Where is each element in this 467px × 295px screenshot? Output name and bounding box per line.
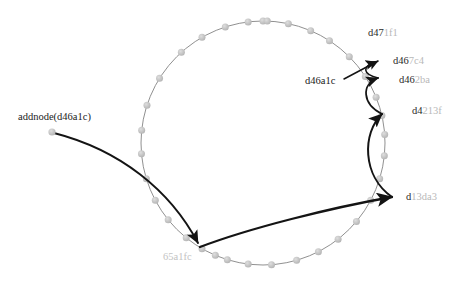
node-label-d467c4: d467c4 (393, 56, 424, 67)
node-label-suffix: 1f1 (384, 27, 398, 38)
arrow-65a1fc-to-d13da3 (200, 197, 392, 247)
ring-node-31 (222, 23, 229, 30)
ring-node-21 (183, 234, 190, 241)
ring-node-27 (143, 102, 150, 109)
ring-node-32 (245, 18, 252, 25)
ring-node-30 (199, 34, 206, 41)
ring-node-28 (156, 75, 163, 82)
dht-ring-diagram: addnode(d46a1c) d46a1c d471f1 d467c4 d46… (0, 0, 467, 295)
ring-node-25 (138, 150, 145, 157)
node-label-suffix: 213f (423, 105, 442, 116)
node-label-d4213f: d4213f (412, 106, 442, 117)
ring-node-33 (264, 18, 271, 25)
ring-node-6 (373, 94, 380, 101)
ring-node-2 (307, 27, 314, 34)
node-label-suffix: 7c4 (409, 55, 424, 66)
node-label-prefix: 65a1fc (163, 251, 192, 262)
ring-node-14 (315, 248, 322, 255)
ring-node-29 (178, 49, 185, 56)
ring-node-8 (381, 131, 388, 138)
node-label-prefix: d46 (399, 74, 415, 85)
addnode-source-dot (48, 128, 55, 135)
ring-node-26 (138, 127, 145, 134)
ring-nodes-group (138, 18, 388, 269)
ring-node-22 (165, 216, 172, 223)
node-label-suffix: 13da3 (411, 191, 437, 202)
arrows-group (54, 61, 392, 247)
node-label-suffix: 2ba (415, 74, 430, 85)
ring-node-9 (381, 152, 388, 159)
ring-node-1 (285, 20, 292, 27)
node-label-d13da3: d13da3 (406, 192, 437, 203)
ring-node-13 (335, 236, 342, 243)
ring-node-3 (326, 37, 333, 44)
node-label-d462ba: d462ba (399, 75, 430, 86)
ring-node-19 (212, 252, 219, 259)
ring-node-23 (152, 197, 159, 204)
ring-node-16 (268, 261, 275, 268)
node-label-65a1fc: 65a1fc (163, 252, 192, 263)
ring-node-18 (224, 256, 231, 263)
node-label-d471f1: d471f1 (368, 28, 398, 39)
node-label-prefix: d4 (412, 105, 423, 116)
arrow-d13da3-to-d4213f (368, 114, 392, 197)
ring-canvas (0, 0, 467, 295)
ring-node-15 (293, 257, 300, 264)
node-label-prefix: d47 (368, 27, 384, 38)
addnode-label: addnode(d46a1c) (18, 112, 91, 123)
operation-source-label: d46a1c (305, 76, 335, 87)
ring-node-12 (353, 218, 360, 225)
node-label-prefix: d46 (393, 55, 409, 66)
ring-node-17 (245, 261, 252, 268)
arrow-addnode-to-65a1fc (54, 133, 198, 243)
ring-node-4 (346, 53, 353, 60)
